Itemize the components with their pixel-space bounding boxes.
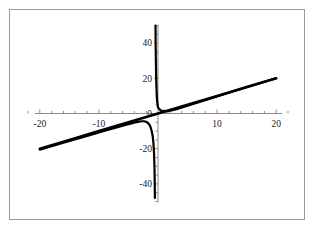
curve-rational-curve-lower-branch — [40, 121, 155, 198]
x-axis-tick-label: 10 — [212, 119, 222, 129]
y-axis-tick-label: -40 — [139, 179, 152, 189]
y-axis-tick-label: 20 — [143, 74, 153, 84]
curve-rational-curve-upper-branch — [156, 26, 277, 112]
figure-root: -20-10102040200-20-40 — [0, 0, 317, 231]
x-axis-tick-label: -20 — [33, 119, 46, 129]
y-axis-tick-label: 40 — [143, 38, 153, 48]
x-axis-tick-label: -10 — [93, 119, 106, 129]
plot-canvas: -20-10102040200-20-40 — [10, 10, 304, 219]
y-axis-tick-label: -20 — [139, 144, 152, 154]
plot-frame: -20-10102040200-20-40 — [9, 9, 305, 220]
x-axis-tick-label: 20 — [271, 119, 281, 129]
